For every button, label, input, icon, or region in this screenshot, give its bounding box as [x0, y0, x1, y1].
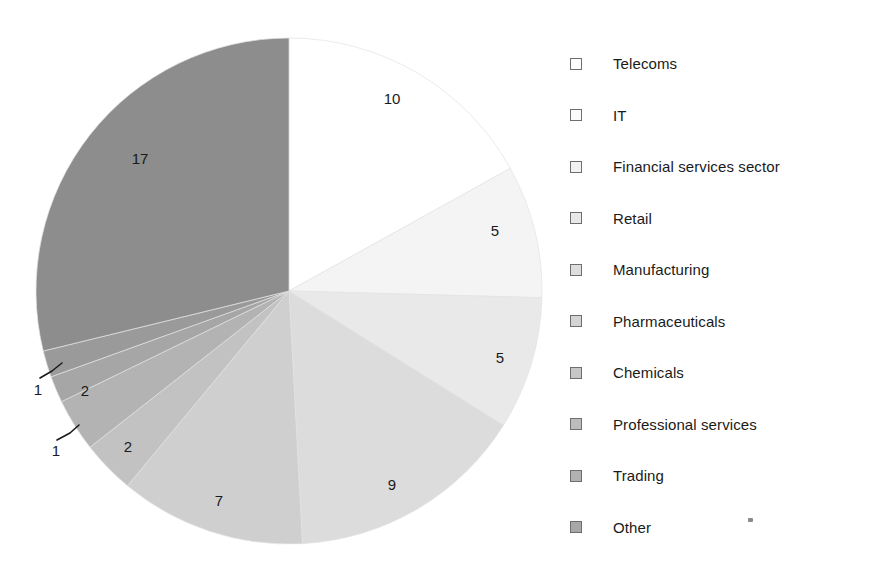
legend-swatch-icon [570, 58, 582, 70]
legend-item[interactable]: Financial services sector [570, 141, 880, 193]
pie-slice-value-label: 10 [384, 90, 401, 107]
pie-slice-value-label: 2 [81, 382, 89, 399]
pie-chart-svg: 105597221117 [0, 0, 560, 571]
pie-slice-value-label: 7 [215, 492, 223, 509]
legend-item-label: IT [613, 107, 627, 124]
legend-swatch-icon [570, 367, 582, 379]
legend-item[interactable]: Other [570, 502, 880, 554]
pie-slice-value-label: 5 [496, 349, 504, 366]
legend-swatch-icon [570, 212, 582, 224]
pie-slice-value-label: 1 [52, 442, 60, 459]
legend-item-label: Retail [613, 210, 652, 227]
pie-slice-value-label: 5 [491, 222, 499, 239]
legend-item-label: Professional services [613, 416, 757, 433]
legend-item-label: Trading [613, 467, 664, 484]
legend-swatch-icon [570, 521, 582, 533]
legend-item-label: Chemicals [613, 364, 684, 381]
legend-item-label: Financial services sector [613, 158, 780, 175]
pie-slice-value-label: 17 [132, 150, 149, 167]
legend-item[interactable]: Telecoms [570, 38, 880, 90]
chart-page: 105597221117 TelecomsITFinancial service… [0, 0, 883, 571]
pie-chart: 105597221117 [0, 0, 560, 571]
legend-item-label: Telecoms [613, 55, 677, 72]
legend-item[interactable]: Manufacturing [570, 244, 880, 296]
legend-item[interactable]: Trading [570, 450, 880, 502]
pie-slice-group [36, 38, 542, 544]
legend-item[interactable]: Pharmaceuticals [570, 296, 880, 348]
legend-swatch-icon [570, 161, 582, 173]
stray-artifact-mark [748, 518, 753, 522]
legend-swatch-icon [570, 470, 582, 482]
legend-swatch-icon [570, 109, 582, 121]
pie-leader-line [57, 425, 79, 440]
legend-item[interactable]: Professional services [570, 399, 880, 451]
legend-swatch-icon [570, 264, 582, 276]
pie-slice-value-label: 1 [34, 381, 42, 398]
legend-swatch-icon [570, 315, 582, 327]
chart-legend: TelecomsITFinancial services sectorRetai… [570, 38, 880, 553]
legend-item[interactable]: Chemicals [570, 347, 880, 399]
legend-swatch-icon [570, 418, 582, 430]
legend-item-label: Manufacturing [613, 261, 709, 278]
legend-item-label: Pharmaceuticals [613, 313, 725, 330]
legend-item[interactable]: Retail [570, 193, 880, 245]
legend-item-label: Other [613, 519, 651, 536]
legend-item[interactable]: IT [570, 90, 880, 142]
pie-slice-value-label: 2 [124, 438, 132, 455]
pie-slice-value-label: 9 [388, 476, 396, 493]
